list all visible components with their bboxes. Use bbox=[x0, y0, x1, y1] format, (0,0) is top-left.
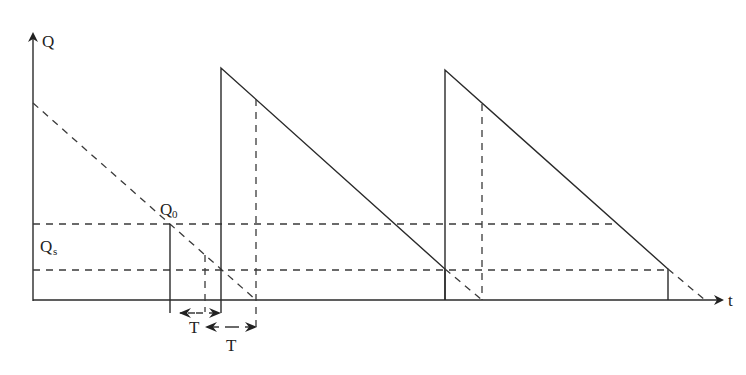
inventory-diagram: Q t T T Q 0 Q s bbox=[0, 0, 746, 375]
y-axis-label: Q bbox=[42, 32, 54, 51]
svg-text:s: s bbox=[53, 245, 57, 257]
svg-text:Q: Q bbox=[40, 237, 52, 256]
x-axis-label: t bbox=[728, 291, 733, 310]
sawtooth-cycle-2 bbox=[445, 70, 668, 300]
continuation-line-2 bbox=[668, 269, 705, 300]
qs-label: Q s bbox=[40, 237, 57, 257]
sawtooth-cycle-1 bbox=[221, 68, 445, 300]
q0-label: Q 0 bbox=[160, 200, 178, 220]
initial-depletion-line bbox=[33, 103, 256, 300]
interval-label-1: T bbox=[189, 318, 200, 337]
continuation-line-1 bbox=[445, 269, 482, 300]
svg-text:0: 0 bbox=[172, 208, 178, 220]
svg-text:Q: Q bbox=[160, 200, 172, 219]
interval-label-2: T bbox=[226, 336, 237, 355]
